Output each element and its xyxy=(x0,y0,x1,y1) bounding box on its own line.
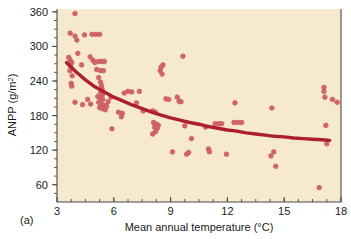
y-axis-title-main: ANPP (g/m xyxy=(6,82,18,137)
x-axis-tick-labels: 369121518 xyxy=(54,205,347,217)
data-point xyxy=(330,97,335,102)
data-point xyxy=(323,123,328,128)
y-tick-label: 300 xyxy=(30,40,48,52)
data-point xyxy=(324,141,329,146)
data-point xyxy=(179,99,184,104)
data-point xyxy=(239,120,244,125)
y-tick-label: 120 xyxy=(30,144,48,156)
data-point xyxy=(119,114,124,119)
data-point xyxy=(97,32,102,37)
data-point xyxy=(322,89,327,94)
data-point xyxy=(73,11,78,16)
data-point xyxy=(85,97,90,102)
y-axis-tick-labels: 60120180240300360 xyxy=(30,6,48,191)
data-point xyxy=(106,99,111,104)
data-point xyxy=(207,149,212,154)
data-point xyxy=(189,136,194,141)
data-point xyxy=(335,100,340,105)
y-tick-label: 360 xyxy=(30,6,48,18)
data-point xyxy=(104,104,109,109)
data-point xyxy=(70,73,75,78)
y-axis-ticks xyxy=(52,12,57,193)
data-point xyxy=(317,185,322,190)
figure-panel-a: 369121518 60120180240300360 Mean annual … xyxy=(0,0,351,239)
data-point xyxy=(69,84,74,89)
data-point xyxy=(269,106,274,111)
data-point xyxy=(80,102,85,107)
data-point xyxy=(323,95,328,100)
data-point xyxy=(129,90,134,95)
data-point xyxy=(102,59,107,64)
x-tick-label: 18 xyxy=(335,205,347,217)
data-point xyxy=(233,101,238,106)
y-axis-title-tail: ) xyxy=(6,74,18,78)
data-point xyxy=(160,72,165,77)
data-point xyxy=(271,149,276,154)
y-tick-label: 240 xyxy=(30,75,48,87)
data-point xyxy=(224,152,229,157)
data-point xyxy=(137,89,142,94)
data-point xyxy=(159,65,164,70)
data-point xyxy=(110,126,115,131)
panel-label: (a) xyxy=(20,214,33,226)
data-point xyxy=(181,54,186,59)
data-point xyxy=(88,102,93,107)
x-tick-label: 12 xyxy=(221,205,233,217)
data-point xyxy=(219,121,224,126)
data-point xyxy=(170,149,175,154)
data-point xyxy=(166,97,171,102)
y-tick-label: 60 xyxy=(36,179,48,191)
scatter-chart: 369121518 60120180240300360 Mean annual … xyxy=(0,0,351,239)
data-point xyxy=(182,124,187,129)
x-tick-label: 15 xyxy=(278,205,290,217)
data-point xyxy=(73,100,78,105)
x-tick-label: 3 xyxy=(54,205,60,217)
data-point xyxy=(150,132,155,137)
data-point xyxy=(186,150,191,155)
data-point xyxy=(101,68,106,73)
y-axis-title: ANPP (g/m2) xyxy=(6,74,19,137)
data-point xyxy=(273,164,278,169)
data-point xyxy=(68,31,73,36)
data-point xyxy=(100,97,105,102)
x-axis-title: Mean annual temperature (°C) xyxy=(125,221,274,233)
y-tick-label: 180 xyxy=(30,110,48,122)
data-point xyxy=(82,33,87,38)
data-point xyxy=(96,75,101,80)
x-tick-label: 6 xyxy=(111,205,117,217)
x-tick-label: 9 xyxy=(168,205,174,217)
data-point xyxy=(75,51,80,56)
data-point xyxy=(74,38,79,43)
data-point xyxy=(79,62,84,67)
